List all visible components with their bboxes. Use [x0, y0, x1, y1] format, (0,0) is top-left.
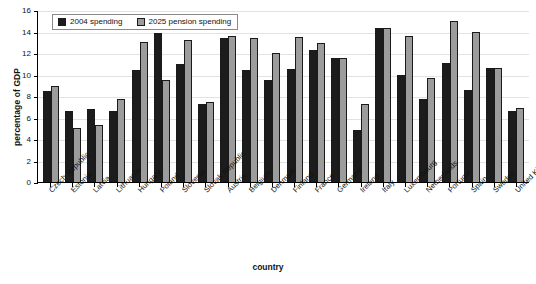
bar — [117, 99, 125, 182]
bar-group — [173, 11, 195, 182]
plot-inner: 0246810121416 — [38, 11, 529, 182]
bar — [397, 75, 405, 183]
bar — [95, 125, 103, 182]
bar — [43, 91, 51, 182]
bar — [472, 32, 480, 183]
y-tick-label: 6 — [27, 113, 31, 124]
series-1-swatch-icon — [58, 18, 66, 26]
bar — [264, 80, 272, 182]
legend-label-series-1: 2004 spending — [70, 17, 123, 26]
bar-group — [372, 11, 394, 182]
legend-item-series-2: 2025 pension spending — [137, 17, 232, 26]
y-tick-label: 0 — [27, 177, 31, 188]
bar-group — [350, 11, 372, 182]
y-tick: 16 — [7, 11, 38, 12]
bar — [51, 86, 59, 182]
bar-group — [328, 11, 350, 182]
y-tick-label: 12 — [22, 48, 31, 59]
y-tick-label: 8 — [27, 91, 31, 102]
y-tick: 8 — [7, 97, 38, 98]
x-axis-labels: Czech RepublicEstoniaLatviaLithuaniaHung… — [37, 188, 529, 254]
bar — [383, 28, 391, 182]
bar-group — [394, 11, 416, 182]
bar — [154, 33, 162, 182]
y-tick: 14 — [7, 33, 38, 34]
bar-group — [483, 11, 505, 182]
bar — [109, 111, 117, 182]
bar-group — [129, 11, 151, 182]
bar-group — [40, 11, 62, 182]
bar-group — [505, 11, 527, 182]
bar-group — [461, 11, 483, 182]
bar — [176, 64, 184, 182]
y-tick: 2 — [7, 162, 38, 163]
y-tick-label: 16 — [22, 5, 31, 16]
y-tick: 12 — [7, 54, 38, 55]
y-tick: 10 — [7, 76, 38, 77]
y-tick-label: 14 — [22, 27, 31, 38]
bar-group — [106, 11, 128, 182]
bar — [242, 70, 250, 182]
bar — [516, 108, 524, 182]
bar — [140, 42, 148, 182]
series-2-swatch-icon — [137, 18, 145, 26]
bar — [317, 43, 325, 182]
bar-group — [261, 11, 283, 182]
bar — [250, 38, 258, 182]
bar — [405, 36, 413, 182]
bar — [339, 58, 347, 182]
plot-area: 0246810121416 — [37, 11, 529, 183]
bar-group — [439, 11, 461, 182]
bar — [486, 68, 494, 182]
bar — [162, 80, 170, 182]
y-axis-title: percentage of GDP — [12, 52, 22, 162]
bar — [295, 37, 303, 182]
bar — [331, 58, 339, 182]
y-tick-label: 2 — [27, 156, 31, 167]
y-tick: 6 — [7, 119, 38, 120]
chart-legend: 2004 spending 2025 pension spending — [52, 14, 238, 30]
bar — [220, 38, 228, 182]
y-tick-label: 4 — [27, 134, 31, 145]
bar — [494, 68, 502, 182]
bar-group — [195, 11, 217, 182]
bar-groups — [38, 11, 529, 182]
y-tick-label: 10 — [22, 70, 31, 81]
bar — [375, 28, 383, 182]
bar — [272, 53, 280, 182]
bar — [309, 50, 317, 182]
bar-group — [284, 11, 306, 182]
y-tick: 0 — [7, 183, 38, 184]
x-axis-title: country — [0, 262, 536, 272]
y-tick: 4 — [7, 140, 38, 141]
bar-chart: percentage of GDP 0246810121416 Czech Re… — [0, 0, 536, 284]
bar-group — [151, 11, 173, 182]
bar-group — [306, 11, 328, 182]
bar — [184, 40, 192, 182]
legend-item-series-1: 2004 spending — [58, 17, 123, 26]
legend-label-series-2: 2025 pension spending — [149, 17, 232, 26]
bar — [206, 102, 214, 182]
bar-group — [416, 11, 438, 182]
